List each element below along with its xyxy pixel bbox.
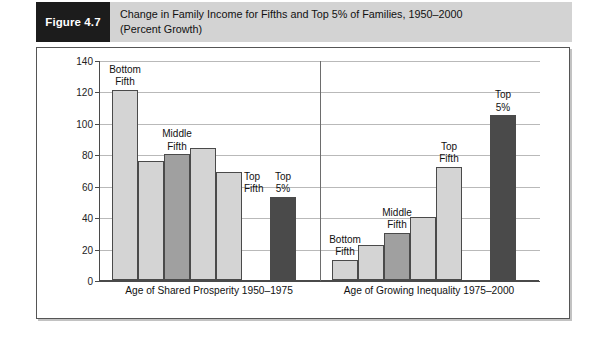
y-tick-mark [95, 155, 100, 156]
bar [164, 154, 190, 280]
bar [216, 172, 242, 280]
y-tick-label: 0 [87, 276, 93, 287]
bar-label: Top5% [253, 171, 313, 196]
y-tick-mark [95, 124, 100, 125]
y-tick-label: 60 [82, 181, 93, 192]
y-tick-mark [95, 61, 100, 62]
gridline [100, 281, 540, 282]
bar [190, 148, 216, 280]
y-tick-label: 140 [76, 56, 93, 67]
bar-label: BottomFifth [95, 64, 155, 89]
x-group-label: Age of Shared Prosperity 1950–1975 [99, 285, 319, 296]
bar-label: Top5% [473, 89, 533, 114]
y-tick-mark [95, 281, 100, 282]
y-tick-label: 80 [82, 150, 93, 161]
bar [138, 161, 164, 280]
figure-caption-text: Change in Family Income for Fifths and T… [110, 2, 572, 42]
bar [436, 167, 462, 280]
plot-wrapper: 020406080100120140 BottomFifthMiddleFift… [99, 61, 539, 281]
bar [332, 260, 358, 280]
bar [490, 115, 516, 280]
bar-label: TopFifth [419, 141, 479, 166]
bar [384, 233, 410, 280]
bar [358, 245, 384, 280]
x-group-label: Age of Growing Inequality 1975–2000 [319, 285, 539, 296]
y-tick-mark [95, 187, 100, 188]
chart-panel: 020406080100120140 BottomFifthMiddleFift… [36, 47, 570, 319]
caption-line-1: Change in Family Income for Fifths and T… [120, 7, 572, 22]
y-tick-label: 100 [76, 118, 93, 129]
bar [112, 90, 138, 280]
y-tick-mark [95, 250, 100, 251]
figure-caption-header: Figure 4.7 Change in Family Income for F… [36, 2, 572, 42]
bar [270, 197, 296, 280]
y-tick-label: 120 [76, 87, 93, 98]
y-tick-mark [95, 92, 100, 93]
y-tick-label: 20 [82, 244, 93, 255]
caption-line-2: (Percent Growth) [120, 22, 572, 37]
bar [410, 217, 436, 280]
plot-area: 020406080100120140 BottomFifthMiddleFift… [99, 61, 539, 281]
y-tick-label: 40 [82, 213, 93, 224]
figure-number-badge: Figure 4.7 [36, 2, 110, 42]
y-tick-mark [95, 218, 100, 219]
